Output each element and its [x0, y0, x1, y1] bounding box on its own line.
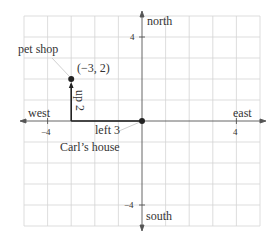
north-label: north [147, 14, 172, 28]
east-label: east [233, 106, 252, 120]
carls-house-leader-line [119, 122, 140, 131]
coordinate-map-diagram: north south east west 4 −4 −4 4 pet shop… [0, 0, 273, 238]
pet-shop-leader-line [52, 58, 69, 76]
south-arrow-icon [140, 225, 144, 231]
up-arrowhead-icon [69, 82, 74, 88]
east-arrow-icon [260, 119, 266, 123]
tick-label-y-pos: 4 [130, 32, 135, 42]
pet-shop-point [68, 76, 74, 82]
tick-label-x-neg: −4 [41, 127, 51, 137]
carls-house-label: Carl’s house [60, 140, 120, 154]
left-3-label: left 3 [95, 123, 120, 137]
tick-label-y-neg: −4 [124, 200, 134, 210]
north-arrow-icon [140, 11, 144, 17]
south-label: south [146, 209, 172, 223]
pet-shop-coordinate-label: (−3, 2) [77, 61, 110, 75]
up-2-label: up 2 [73, 90, 87, 111]
tick-label-x-pos: 4 [233, 127, 238, 137]
west-label: west [28, 106, 51, 120]
west-arrow-icon [20, 119, 26, 123]
carls-house-point [139, 118, 145, 124]
pet-shop-label: pet shop [18, 42, 58, 56]
